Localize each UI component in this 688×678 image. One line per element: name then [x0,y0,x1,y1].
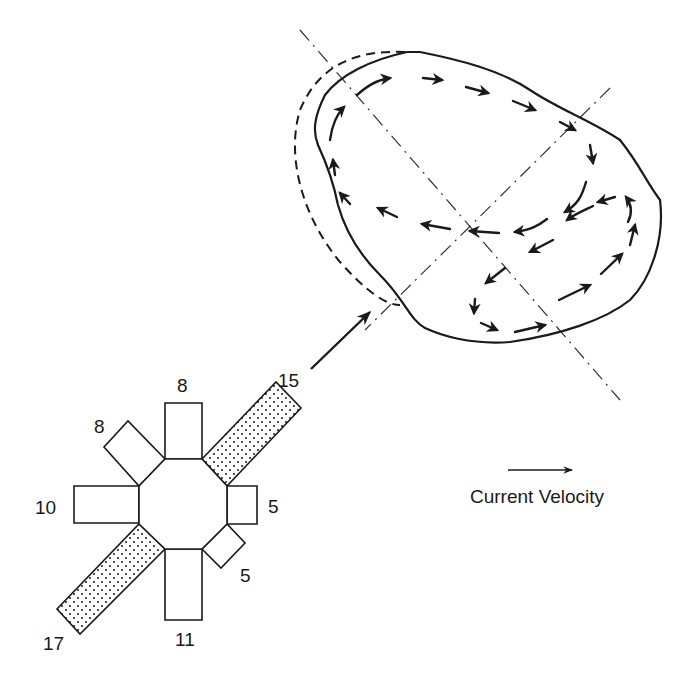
label-n: 8 [177,375,188,396]
label-s: 11 [175,629,195,650]
rose-bar-sw [57,524,165,634]
eddy-outline [315,52,661,343]
legend-label: Current Velocity [470,486,605,507]
eddy-axis-major [300,30,620,400]
label-ne: 15 [278,370,299,391]
rose-bar-w [74,486,139,523]
rose-octagon [139,459,227,549]
label-sw: 17 [43,633,64,654]
eddy [295,30,661,400]
eddy-diagram: 8 8 10 17 11 5 5 15 [0,0,688,678]
rose-bar-s [165,549,202,620]
label-nw: 8 [94,416,105,437]
label-se: 5 [240,565,251,586]
label-e: 5 [268,496,279,517]
rose-bar-ne [202,382,301,486]
eddy-dashed-boundary [295,52,405,305]
direction-arrow [311,312,370,369]
current-rose: 8 8 10 17 11 5 5 15 [35,370,301,654]
label-w: 10 [35,497,56,518]
rose-bar-n [165,403,202,459]
legend: Current Velocity [470,470,605,507]
rose-bar-e [227,486,257,524]
